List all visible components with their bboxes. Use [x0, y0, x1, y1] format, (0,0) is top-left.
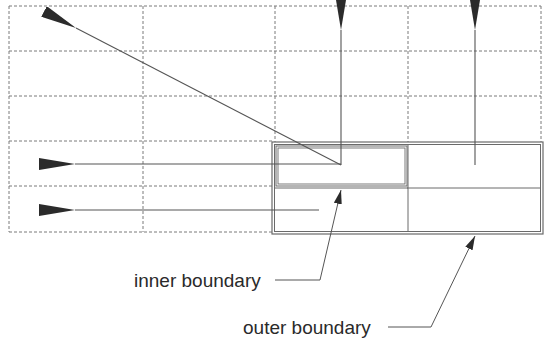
boundary-diagram: inner boundary outer boundary [0, 0, 547, 343]
inner-leader-line [275, 190, 341, 280]
inner-boundary-label: inner boundary [134, 270, 261, 291]
outer-boundary-label: outer boundary [243, 317, 371, 338]
outer-leader-line [388, 236, 475, 327]
